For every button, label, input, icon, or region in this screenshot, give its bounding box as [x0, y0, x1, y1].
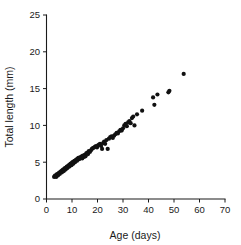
y-axis-title: Total length (mm) — [3, 66, 15, 147]
data-point — [125, 124, 129, 128]
data-point — [129, 121, 133, 125]
data-point — [182, 72, 186, 76]
data-point — [100, 147, 104, 151]
x-axis-ticks: 010203040506070 — [44, 199, 230, 215]
data-point — [167, 89, 171, 93]
data-point — [131, 114, 135, 118]
x-tick-label: 60 — [194, 204, 205, 215]
y-tick-label: 15 — [29, 83, 40, 94]
data-point — [140, 109, 144, 113]
y-axis-ticks: 0510152025 — [29, 9, 46, 204]
y-axis: 0510152025 — [29, 9, 46, 204]
data-point — [152, 103, 156, 107]
x-tick-label: 30 — [118, 204, 129, 215]
y-tick-label: 5 — [35, 157, 40, 168]
plot-canvas: 0510152025 010203040506070 Age (days) To… — [0, 0, 241, 245]
x-tick-label: 70 — [220, 204, 231, 215]
y-tick-label: 0 — [35, 193, 40, 204]
data-point — [103, 142, 107, 146]
x-tick-label: 40 — [143, 204, 154, 215]
x-tick-label: 10 — [67, 204, 78, 215]
y-tick-label: 25 — [29, 9, 40, 20]
data-point — [155, 92, 159, 96]
x-axis: 010203040506070 — [44, 199, 230, 215]
data-point — [132, 123, 136, 127]
x-tick-label: 0 — [44, 204, 49, 215]
x-tick-label: 20 — [92, 204, 103, 215]
x-tick-label: 50 — [169, 204, 180, 215]
y-tick-label: 20 — [29, 46, 40, 57]
data-point — [135, 112, 139, 116]
data-point — [106, 147, 110, 151]
y-tick-label: 10 — [29, 120, 40, 131]
data-points-group — [52, 72, 186, 179]
x-axis-title: Age (days) — [110, 229, 161, 241]
data-point — [151, 95, 155, 99]
scatter-plot-figure: 0510152025 010203040506070 Age (days) To… — [0, 0, 241, 245]
